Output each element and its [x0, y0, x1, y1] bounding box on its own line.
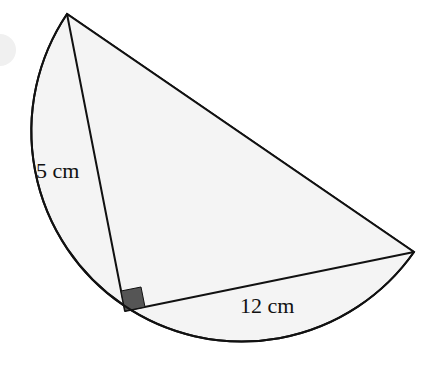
long-leg-label: 12 cm — [240, 293, 294, 318]
right-angle-marker — [121, 287, 145, 311]
faint-background-circle — [0, 34, 16, 66]
short-leg-label: 5 cm — [36, 158, 79, 183]
semicircle-triangle-diagram: 5 cm 12 cm — [0, 0, 439, 370]
